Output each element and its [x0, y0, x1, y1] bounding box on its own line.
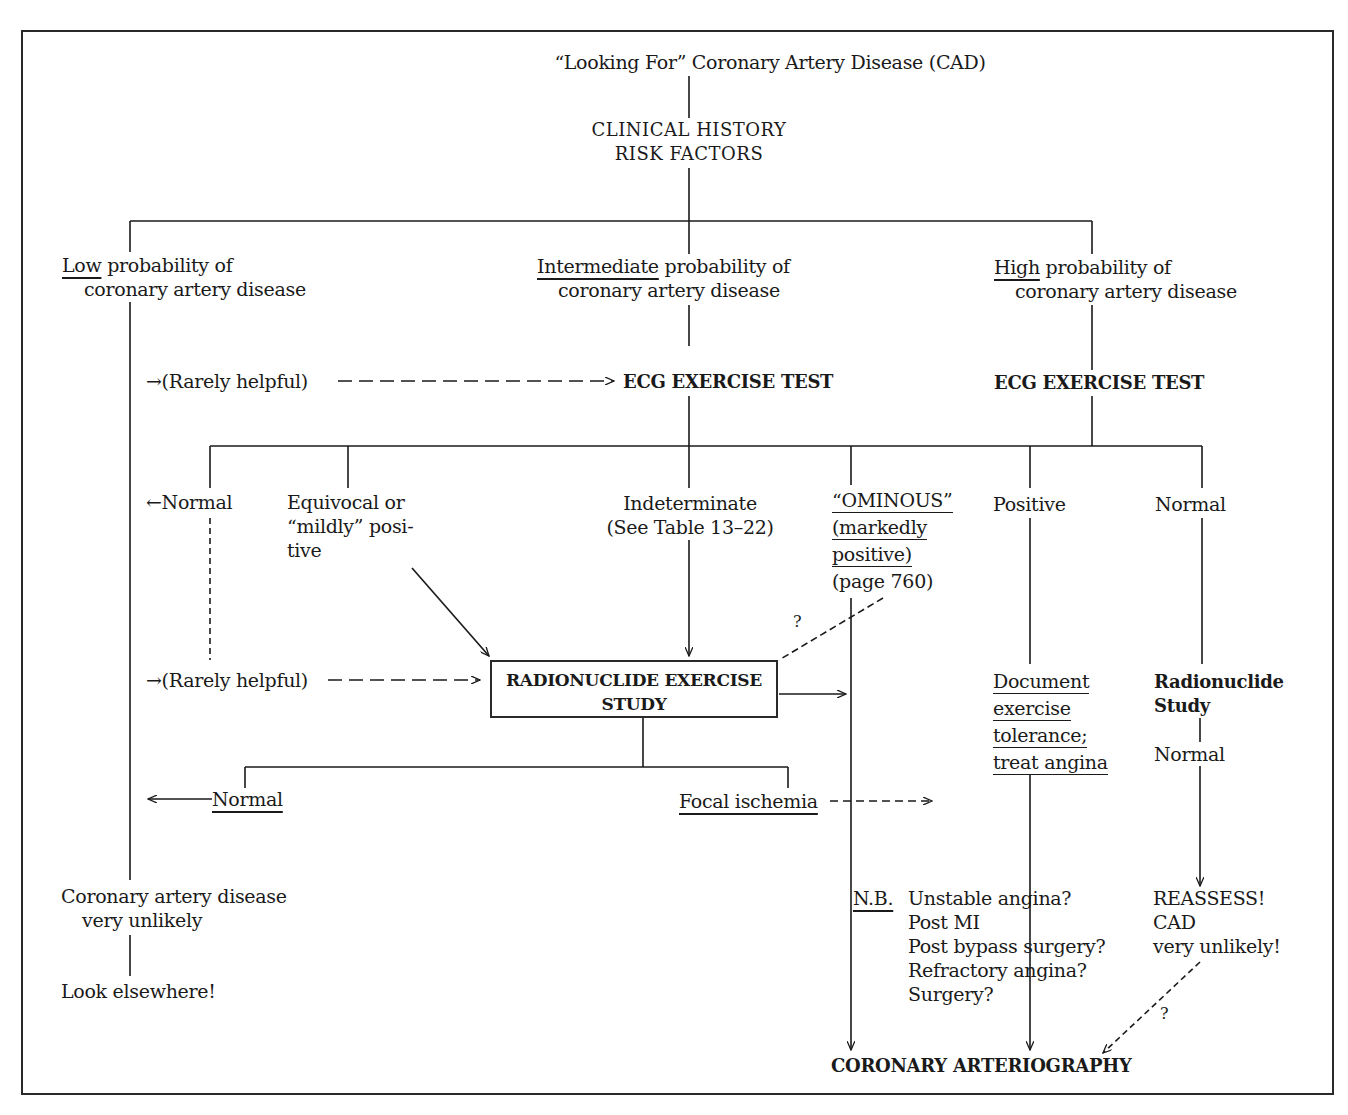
ominous-page-ref: (page 760) — [832, 569, 953, 593]
reassess-line: CAD — [1153, 910, 1280, 934]
low-probability-text: probability of — [101, 254, 232, 276]
risk-factors-label: RISK FACTORS — [560, 142, 818, 166]
radionuclide-result-normal: Normal — [212, 787, 283, 811]
radionuclide-study-high-node: Radionuclide Study — [1154, 670, 1284, 718]
intermediate-probability-line2: coronary artery disease — [537, 278, 790, 302]
document-line: exercise — [993, 696, 1071, 721]
nb-label: N.B. — [853, 886, 893, 910]
ecg-result-positive: Positive — [993, 492, 1066, 516]
high-probability-line2: coronary artery disease — [994, 279, 1237, 303]
ecg-result-equivocal: Equivocal or “mildly” posi- tive — [287, 490, 413, 562]
document-line: tolerance; — [993, 723, 1087, 748]
ecg-exercise-test-intermediate: ECG EXERCISE TEST — [623, 370, 833, 394]
rarely-helpful-label-1: →(Rarely helpful) — [146, 369, 308, 393]
nb-item: Unstable angina? — [908, 886, 1105, 910]
rarely-helpful-label-2: →(Rarely helpful) — [146, 668, 308, 692]
indeterminate-line: Indeterminate — [570, 491, 810, 515]
low-emphasis: Low — [62, 254, 101, 276]
document-line: treat angina — [993, 750, 1108, 775]
reassess-line: REASSESS! — [1153, 886, 1280, 910]
nb-item: Post bypass surgery? — [908, 934, 1105, 958]
nb-list: Unstable angina? Post MI Post bypass sur… — [908, 886, 1105, 1006]
high-probability-text: probability of — [1040, 256, 1171, 278]
coronary-arteriography-node: CORONARY ARTERIOGRAPHY — [831, 1054, 1131, 1078]
question-mark-reassess: ? — [1160, 1004, 1169, 1023]
ecg-result-ominous: “OMINOUS” (markedly positive) (page 760) — [832, 488, 953, 593]
cad-unlikely-line2: very unlikely — [61, 908, 287, 932]
ominous-line: positive) — [832, 542, 912, 567]
radionuclide-box-line1: RADIONUCLIDE EXERCISE — [492, 668, 776, 692]
reassess-node: REASSESS! CAD very unlikely! — [1153, 886, 1280, 958]
intermediate-probability-text: probability of — [659, 255, 790, 277]
clinical-history-node: CLINICAL HISTORY RISK FACTORS — [560, 118, 818, 166]
equivocal-line: tive — [287, 538, 413, 562]
look-elsewhere-label: Look elsewhere! — [61, 979, 216, 1003]
intermediate-emphasis: Intermediate — [537, 255, 659, 277]
low-probability-node: Low probability of coronary artery disea… — [62, 253, 306, 301]
ecg-result-indeterminate: Indeterminate (See Table 13–22) — [570, 491, 810, 539]
nb-item: Refractory angina? — [908, 958, 1105, 982]
radionuclide-exercise-study-box: RADIONUCLIDE EXERCISE STUDY — [490, 660, 778, 718]
indeterminate-table-ref: (See Table 13–22) — [570, 515, 810, 539]
connector-lines — [0, 0, 1348, 1115]
ominous-line: “OMINOUS” — [832, 488, 953, 513]
reassess-line: very unlikely! — [1153, 934, 1280, 958]
radionuclide-study-line1: Radionuclide — [1154, 670, 1284, 694]
diagram-title: “Looking For” Coronary Artery Disease (C… — [530, 50, 1010, 74]
question-mark-ominous: ? — [793, 612, 802, 631]
ecg-result-normal: ←Normal — [146, 490, 232, 514]
radionuclide-study-high-result: Normal — [1154, 742, 1225, 766]
high-emphasis: High — [994, 256, 1040, 278]
intermediate-probability-node: Intermediate probability of coronary art… — [537, 254, 790, 302]
nb-item: Post MI — [908, 910, 1105, 934]
document-line: Document — [993, 669, 1089, 694]
radionuclide-study-line2: Study — [1154, 694, 1284, 718]
ecg-exercise-test-high: ECG EXERCISE TEST — [994, 371, 1204, 395]
equivocal-line: Equivocal or — [287, 490, 413, 514]
ecg-result-normal-high: Normal — [1155, 492, 1226, 516]
document-exercise-tolerance-node: Document exercise tolerance; treat angin… — [993, 669, 1108, 777]
equivocal-line: “mildly” posi- — [287, 514, 413, 538]
nb-item: Surgery? — [908, 982, 1105, 1006]
low-probability-line2: coronary artery disease — [62, 277, 306, 301]
clinical-history-label: CLINICAL HISTORY — [560, 118, 818, 142]
radionuclide-result-focal-ischemia: Focal ischemia — [679, 789, 818, 813]
cad-unlikely-line1: Coronary artery disease — [61, 884, 287, 908]
high-probability-node: High probability of coronary artery dise… — [994, 255, 1237, 303]
radionuclide-box-line2: STUDY — [492, 692, 776, 716]
cad-very-unlikely-node: Coronary artery disease very unlikely — [61, 884, 287, 932]
ominous-line: (markedly — [832, 515, 927, 540]
